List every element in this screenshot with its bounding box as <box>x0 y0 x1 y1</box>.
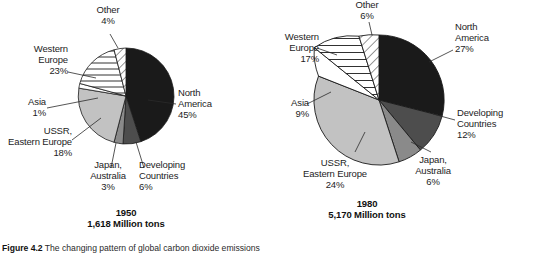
label-japan-australia-1980: Japan,Australia <box>402 155 464 176</box>
label-north-america-1980: NorthAmerica <box>455 22 525 43</box>
label-western-europe-value-1950: 23% <box>0 66 68 77</box>
label-ussr-1950: USSR,Eastern Europe <box>0 126 72 147</box>
label-north-america-1950: NorthAmerica <box>178 88 244 109</box>
label-western-europe-1980: WesternEurope <box>269 32 319 53</box>
label-japan-australia-value-1950: 3% <box>79 182 137 193</box>
figure-caption-text: The changing pattern of global carbon di… <box>45 243 260 253</box>
label-other-1980: Other <box>331 0 403 11</box>
label-asia-1950: Asia <box>0 97 46 108</box>
chart-1950-total: 1,618 Million tons <box>46 218 206 229</box>
label-japan-australia-1950: Japan,Australia <box>79 160 137 181</box>
label-ussr-1980: USSR,Eastern Europe <box>281 158 389 179</box>
label-developing-countries-1980: DevelopingCountries <box>457 108 535 129</box>
label-asia-value-1950: 1% <box>0 108 46 119</box>
label-asia-value-1980: 9% <box>269 109 309 120</box>
chart-1980-total: 5,170 Million tons <box>277 209 457 220</box>
label-developing-countries-value-1980: 12% <box>457 130 535 141</box>
label-other-value-1980: 6% <box>331 11 403 22</box>
label-north-america-value-1950: 45% <box>178 110 244 121</box>
figure-container: Other 4% WesternEurope 23% Asia 1% USSR,… <box>0 0 538 254</box>
pie-chart-1980: Other 6% WesternEurope 17% Asia 9% USSR,… <box>269 0 538 236</box>
label-japan-australia-value-1980: 6% <box>402 177 464 188</box>
figure-caption-label: Figure 4.2 <box>2 243 43 253</box>
label-western-europe-value-1980: 17% <box>269 54 319 65</box>
label-asia-1980: Asia <box>269 98 309 109</box>
label-other-value-1950: 4% <box>78 16 138 27</box>
label-other-1950: Other <box>78 5 138 16</box>
label-ussr-value-1980: 24% <box>281 180 389 191</box>
leader-north-america <box>429 50 453 62</box>
leader-other <box>110 34 118 48</box>
leader-other <box>369 22 372 35</box>
label-western-europe-1950: WesternEurope <box>0 44 68 65</box>
label-north-america-value-1980: 27% <box>455 44 525 55</box>
chart-1950-year: 1950 <box>46 207 206 218</box>
figure-caption: Figure 4.2 The changing pattern of globa… <box>2 243 536 253</box>
label-developing-countries-value-1950: 6% <box>139 182 213 193</box>
pie-chart-1950: Other 4% WesternEurope 23% Asia 1% USSR,… <box>0 0 269 236</box>
label-ussr-value-1950: 18% <box>0 148 72 159</box>
chart-1980-year: 1980 <box>277 198 457 209</box>
label-developing-countries-1950: DevelopingCountries <box>139 160 213 181</box>
